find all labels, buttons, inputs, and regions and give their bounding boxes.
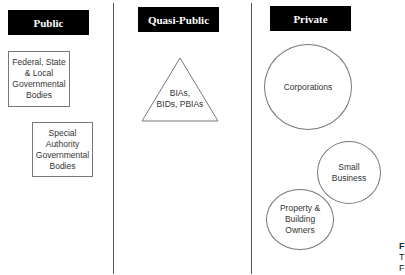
circle-line: Business (332, 173, 367, 184)
circle-corporations: Corporations (264, 44, 352, 130)
circle-small-business: Small Business (317, 141, 381, 204)
header-private: Private (270, 6, 351, 31)
triangle-line: BIDs, PBIAs (141, 99, 219, 110)
box-line: Governmental (12, 79, 65, 90)
circle-line: Owners (280, 225, 320, 236)
triangle-bias-bids-pbias: BIAs, BIDs, PBIAs (141, 57, 219, 123)
column-divider-right (251, 3, 252, 274)
box-federal-state-local-bodies: Federal, State & Local Governmental Bodi… (8, 51, 70, 107)
cut-off-caption: F T F (399, 241, 405, 274)
cut-off-line: T (399, 252, 405, 263)
cut-off-line: F (399, 263, 405, 274)
circle-property-building-owners: Property & Building Owners (266, 189, 334, 250)
header-public: Public (8, 10, 89, 35)
column-divider-left (113, 3, 114, 274)
box-line: & Local (12, 68, 65, 79)
circle-line: Small (332, 162, 367, 173)
circle-line: Property & (280, 203, 320, 214)
box-line: Special (36, 128, 89, 139)
header-quasi-public: Quasi-Public (138, 7, 219, 32)
box-line: Governmental (36, 150, 89, 161)
circle-line: Building (280, 214, 320, 225)
box-line: Bodies (12, 90, 65, 101)
box-line: Federal, State (12, 57, 65, 68)
box-line: Bodies (36, 161, 89, 172)
cut-off-line: F (399, 241, 405, 251)
triangle-line: BIAs, (141, 88, 219, 99)
box-line: Authority (36, 139, 89, 150)
circle-line: Corporations (284, 82, 333, 93)
box-special-authority-bodies: Special Authority Governmental Bodies (32, 122, 93, 177)
